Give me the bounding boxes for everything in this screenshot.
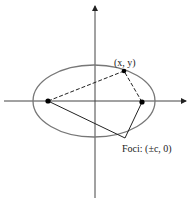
focal-line-left-solid: [48, 101, 125, 138]
focus-right: [139, 99, 144, 104]
focal-line-left-dashed: [48, 71, 124, 101]
point-xy: [122, 69, 127, 74]
foci-label: Foci: (±c, 0): [122, 143, 172, 155]
focal-line-right-solid: [125, 102, 142, 138]
focal-line-right-dashed: [124, 71, 142, 102]
point-label: (x, y): [114, 57, 136, 69]
focus-left: [45, 98, 50, 103]
ellipse-diagram: (x, y) Foci: (±c, 0): [0, 0, 195, 206]
